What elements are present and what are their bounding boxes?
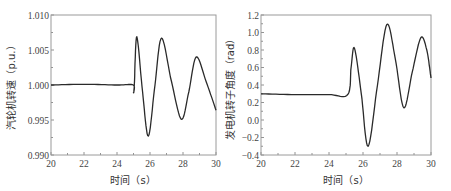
- y-tick-label: 1.0: [247, 28, 259, 38]
- rotor-angle-chart: 202224262830−0.4−0.20.00.20.40.60.81.01.…: [225, 0, 451, 191]
- x-tick-label: 22: [79, 159, 89, 169]
- x-tick-label: 30: [426, 159, 436, 169]
- turbine-speed-line: [51, 37, 216, 136]
- x-tick-label: 28: [392, 159, 402, 169]
- x-tick-label: 30: [211, 159, 221, 169]
- plot-frame: [261, 15, 431, 155]
- y-tick-label: 0.4: [247, 81, 259, 91]
- y-tick-label: 1.005: [28, 46, 50, 56]
- x-tick-label: 24: [324, 159, 334, 169]
- y-tick-label: −0.2: [242, 133, 259, 143]
- x-tick-label: 26: [358, 159, 368, 169]
- y-tick-label: 0.6: [247, 63, 259, 73]
- x-tick-label: 20: [46, 159, 56, 169]
- turbine-speed-chart: 2022242628300.9900.9951.0001.0051.010 时间…: [0, 0, 225, 191]
- y-tick-label: 0.995: [28, 116, 50, 126]
- rotor-angle-plot: 202224262830−0.4−0.20.00.20.40.60.81.01.…: [225, 0, 451, 191]
- y-tick-label: 0.990: [28, 151, 50, 161]
- y-tick-label: −0.4: [242, 151, 259, 161]
- y-tick-label: 1.000: [28, 81, 50, 91]
- x-axis-title: 时间（s）: [323, 174, 368, 186]
- x-tick-label: 20: [256, 159, 266, 169]
- x-axis-title: 时间（s）: [110, 174, 155, 186]
- y-axis-title: 汽轮机转速（p.u.）: [5, 40, 17, 129]
- y-tick-label: 0.0: [247, 116, 259, 126]
- y-tick-label: 1.2: [247, 11, 259, 21]
- y-axis-title: 发电机转子角度（rad）: [225, 34, 236, 141]
- y-tick-label: 0.2: [247, 98, 259, 108]
- turbine-speed-plot: 2022242628300.9900.9951.0001.0051.010 时间…: [0, 0, 225, 191]
- y-tick-label: 1.010: [28, 11, 50, 21]
- x-tick-label: 22: [290, 159, 300, 169]
- x-tick-label: 28: [178, 159, 188, 169]
- y-tick-label: 0.8: [247, 46, 259, 56]
- rotor-angle-line: [261, 24, 431, 146]
- x-tick-label: 26: [145, 159, 155, 169]
- x-tick-label: 24: [112, 159, 122, 169]
